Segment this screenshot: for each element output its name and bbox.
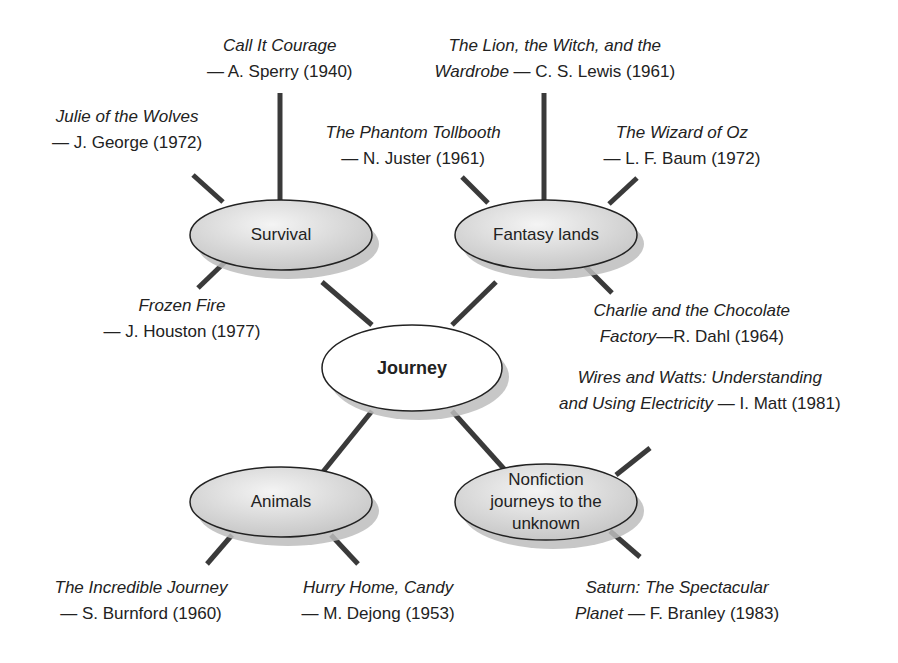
book-entry: The Wizard of Oz— L. F. Baum (1972) — [604, 120, 761, 172]
book-author-year: — M. Dejong (1953) — [302, 604, 455, 623]
book-entry: The Phantom Tollbooth— N. Juster (1961) — [326, 120, 501, 172]
connector-line — [452, 282, 496, 325]
book-entry: Frozen Fire— J. Houston (1977) — [104, 293, 261, 345]
book-title: Saturn: The Spectacular — [575, 575, 779, 601]
book-title: Charlie and the Chocolate — [594, 298, 791, 324]
book-author-year: — F. Branley (1983) — [623, 604, 779, 623]
book-title-continued: and Using Electricity — [559, 394, 713, 413]
book-author-year: — J. George (1972) — [52, 133, 202, 152]
book-title: The Phantom Tollbooth — [326, 120, 501, 146]
book-entry: Wires and Watts: Understandingand Using … — [559, 365, 841, 417]
book-title: The Lion, the Witch, and the — [435, 33, 676, 59]
book-author-year: — J. Houston (1977) — [104, 322, 261, 341]
connector-line — [322, 411, 372, 473]
book-entry: The Incredible Journey— S. Burnford (196… — [55, 575, 228, 627]
subtopic-animals-label: Animals — [190, 467, 372, 537]
book-author-year: — C. S. Lewis (1961) — [509, 62, 675, 81]
book-entry: The Lion, the Witch, and theWardrobe — C… — [435, 33, 676, 85]
book-author-year: — I. Matt (1981) — [713, 394, 841, 413]
book-title-continued: Planet — [575, 604, 623, 623]
connector-line — [322, 282, 372, 325]
book-entry: Saturn: The SpectacularPlanet — F. Branl… — [575, 575, 779, 627]
semantic-web-diagram: SurvivalFantasy landsAnimalsNonfictionjo… — [0, 0, 898, 663]
book-author-year: —R. Dahl (1964) — [656, 327, 784, 346]
connector-line — [207, 535, 232, 564]
book-title-continued: Wardrobe — [435, 62, 509, 81]
book-title: Hurry Home, Candy — [302, 575, 455, 601]
book-title: Wires and Watts: Understanding — [559, 365, 841, 391]
subtopic-nonfiction-label: Nonfictionjourneys to theunknown — [455, 464, 637, 540]
book-author-year: — S. Burnford (1960) — [60, 604, 222, 623]
book-author-year: — A. Sperry (1940) — [207, 62, 353, 81]
book-entry: Call It Courage— A. Sperry (1940) — [207, 33, 353, 85]
connector-line — [452, 411, 505, 470]
book-title-continued: Factory — [600, 327, 657, 346]
book-title: The Incredible Journey — [55, 575, 228, 601]
book-author-year: — L. F. Baum (1972) — [604, 149, 761, 168]
subtopic-fantasy-label: Fantasy lands — [455, 200, 637, 270]
book-title: Frozen Fire — [104, 293, 261, 319]
central-topic-label: Journey — [322, 325, 502, 411]
book-author-year: — N. Juster (1961) — [341, 149, 485, 168]
connector-line — [193, 175, 223, 202]
subtopic-survival-label: Survival — [190, 200, 372, 270]
book-entry: Charlie and the ChocolateFactory—R. Dahl… — [594, 298, 791, 350]
book-title: Julie of the Wolves — [52, 104, 202, 130]
book-entry: Julie of the Wolves— J. George (1972) — [52, 104, 202, 156]
book-title: Call It Courage — [207, 33, 353, 59]
book-entry: Hurry Home, Candy— M. Dejong (1953) — [302, 575, 455, 627]
book-title: The Wizard of Oz — [604, 120, 761, 146]
